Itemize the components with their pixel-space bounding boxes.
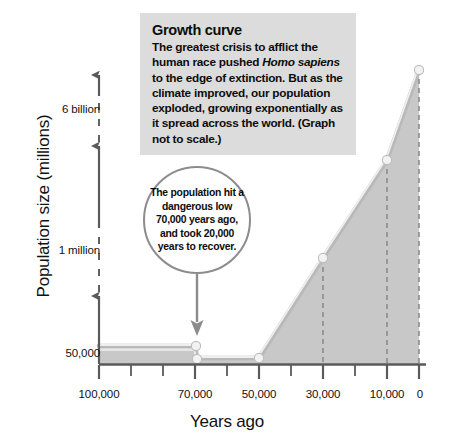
x-tick-label-100000: 100,000 (79, 388, 120, 400)
info-box-species-name: Homo sapiens (262, 55, 340, 69)
growth-curve-info-box: Growth curve The greatest crisis to affl… (140, 13, 356, 155)
bubble-pointer-arrow (191, 320, 204, 336)
data-marker-50000 (254, 353, 263, 362)
x-tick-label-50000: 50,000 (242, 388, 277, 400)
data-marker-70000-high (191, 341, 200, 350)
info-box-title: Growth curve (152, 22, 345, 38)
bubble-text: The population hit a dangerous low 70,00… (149, 186, 245, 253)
y-tick-label-50000: 50,000 (16, 347, 100, 359)
info-box-body: The greatest crisis to afflict the human… (152, 40, 345, 147)
population-low-callout-bubble: The population hit a dangerous low 70,00… (143, 166, 251, 274)
growth-curve-figure: 6 billion 1 million 50,000 100,000 70,00… (0, 0, 454, 443)
data-marker-30000 (318, 253, 327, 262)
y-axis-title: Population size (millions) (34, 76, 54, 336)
x-tick-label-70000: 70,000 (178, 388, 213, 400)
data-marker-0 (414, 65, 423, 74)
x-tick-label-30000: 30,000 (306, 388, 341, 400)
y-tick-label-1-million: 1 million (16, 244, 100, 256)
x-axis-title: Years ago (0, 412, 454, 432)
x-tick-label-10000: 10,000 (370, 388, 405, 400)
data-marker-70000-low (192, 354, 201, 363)
y-tick-label-6-billion: 6 billion (16, 103, 100, 115)
x-tick-label-0: 0 (417, 388, 423, 400)
info-box-body-part-2: to the edge of extinction. But as the cl… (152, 71, 343, 146)
data-marker-10000 (382, 155, 391, 164)
